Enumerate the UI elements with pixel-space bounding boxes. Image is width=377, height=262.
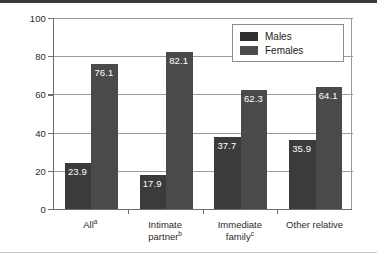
legend-swatch-females-icon — [240, 46, 258, 55]
legend-item: Males — [240, 29, 337, 43]
x-tick-mark — [277, 209, 278, 214]
y-tick-label: 80 — [8, 51, 46, 62]
chart-figure: Percentage 020406080100 23.976.117.982.1… — [0, 0, 377, 262]
bar: 23.9 — [65, 163, 92, 209]
gridline — [54, 18, 353, 19]
bar-value-label: 76.1 — [91, 67, 118, 78]
bar-value-label: 62.3 — [241, 93, 268, 104]
x-category-label: Intimatepartnerb — [148, 219, 182, 242]
bar: 82.1 — [166, 52, 193, 209]
bar: 35.9 — [289, 140, 316, 209]
bar-value-label: 23.9 — [65, 166, 92, 177]
bar-value-label: 35.9 — [289, 143, 316, 154]
bar-value-label: 37.7 — [214, 140, 241, 151]
bar: 17.9 — [140, 175, 167, 209]
y-tick-label: 40 — [8, 127, 46, 138]
y-tick-label: 0 — [8, 204, 46, 215]
x-tick-mark — [203, 209, 204, 214]
x-category-label: Immediatefamilyc — [218, 219, 262, 242]
bar: 64.1 — [316, 87, 343, 209]
y-tick-label: 20 — [8, 165, 46, 176]
bar: 37.7 — [214, 137, 241, 209]
x-tick-mark — [128, 209, 129, 214]
legend: Males Females — [232, 24, 344, 62]
y-tick-label: 60 — [8, 89, 46, 100]
bar: 76.1 — [91, 64, 118, 209]
bottom-rule — [0, 252, 377, 253]
bar-value-label: 64.1 — [316, 90, 343, 101]
x-category-label: Alla — [83, 219, 97, 231]
bar: 62.3 — [241, 90, 268, 209]
legend-item: Females — [240, 43, 337, 57]
legend-swatch-males-icon — [240, 32, 258, 41]
bar-value-label: 17.9 — [140, 178, 167, 189]
legend-label-females: Females — [265, 45, 303, 56]
legend-label-males: Males — [265, 31, 292, 42]
top-rule — [0, 0, 377, 3]
y-tick-label: 100 — [8, 13, 46, 24]
x-category-label: Other relative — [286, 219, 343, 231]
bar-value-label: 82.1 — [166, 55, 193, 66]
